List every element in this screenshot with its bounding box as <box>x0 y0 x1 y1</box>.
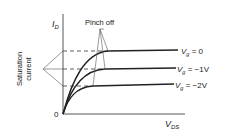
jfet-characteristics-diagram: ID Pinch off 0 VDS Saturation current Vg… <box>0 0 230 136</box>
x-axis-label: VDS <box>165 119 179 130</box>
pinch-off-pointer-3 <box>93 29 100 86</box>
curve-label-vg1: Vg = −1V <box>177 65 210 75</box>
svg-text:Saturation: Saturation <box>15 52 24 86</box>
saturation-pointer-3 <box>43 69 63 86</box>
svg-text:current: current <box>24 56 33 80</box>
pinch-off-label: Pinch off <box>85 18 115 27</box>
saturation-pointer-1 <box>43 51 63 69</box>
origin-label: 0 <box>54 110 59 119</box>
curve-vg2 <box>63 84 174 114</box>
curve-label-vg2: Vg = −2V <box>175 81 208 91</box>
saturation-current-label: Saturation current <box>15 52 33 86</box>
y-axis-label: ID <box>52 19 60 30</box>
curve-vg1 <box>63 68 176 114</box>
curve-label-vg0: Vg = 0 <box>181 47 204 57</box>
curve-vg0 <box>63 50 178 114</box>
